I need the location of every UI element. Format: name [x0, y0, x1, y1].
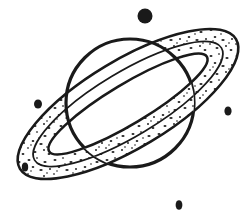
star-bottom: [176, 200, 183, 210]
star-left: [34, 99, 42, 108]
star-bottom-left: [22, 162, 28, 171]
star-top: [138, 9, 153, 24]
saturn-illustration-canvas: Saturn with rings and stars: [0, 0, 252, 221]
star-right: [224, 106, 231, 115]
saturn-scene-svg: [0, 0, 252, 221]
